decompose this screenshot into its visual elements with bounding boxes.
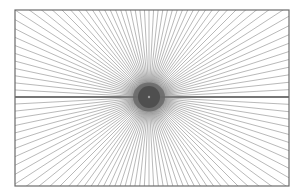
radial-lines-diagram <box>0 0 303 196</box>
center-point <box>148 96 150 98</box>
